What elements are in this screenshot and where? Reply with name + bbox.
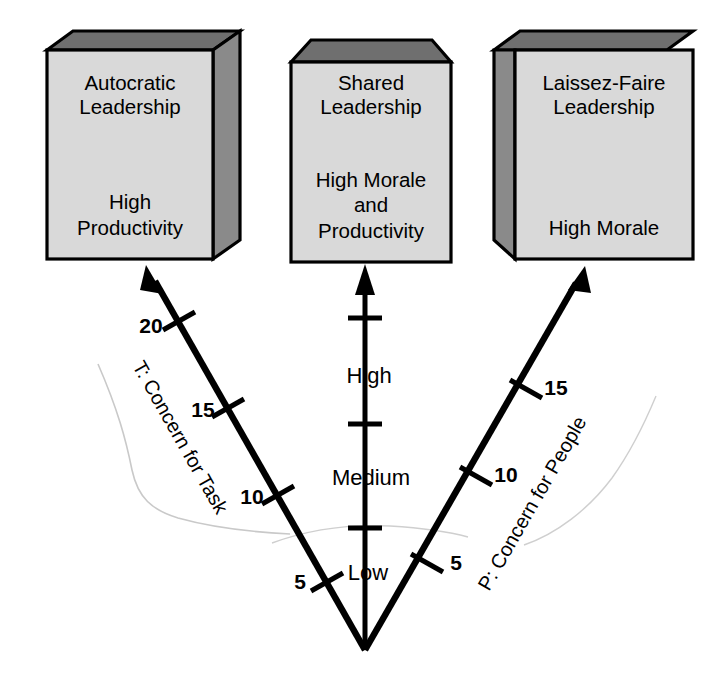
axis-center-label-high: High (346, 363, 391, 388)
axis-task-tick-label-5: 5 (294, 570, 306, 593)
axis-people-tick-label-10: 10 (494, 463, 517, 486)
axis-people-arrowhead (568, 266, 591, 293)
box-autocratic-heading-line2: Leadership (79, 95, 180, 118)
axis-task-name: T: Concern for Task (129, 357, 234, 518)
axis-people: 15 10 5 P: Concern for People (365, 266, 591, 650)
box-laissez-faire: Laissez-Faire Leadership High Morale (494, 31, 693, 259)
box-shared-top (291, 40, 451, 62)
axis-task-tick-label-15: 15 (191, 398, 215, 421)
diagram-canvas: Autocratic Leadership High Productivity … (0, 0, 726, 683)
axis-center-label-medium: Medium (332, 465, 410, 490)
box-autocratic-heading-line1: Autocratic (84, 71, 175, 94)
leadership-grid-diagram: Autocratic Leadership High Productivity … (0, 0, 726, 683)
box-autocratic-outcome-line1: High (109, 190, 151, 213)
box-laissez-faire-outcome-line1: High Morale (549, 216, 660, 239)
axis-center-arrowhead (355, 264, 375, 295)
axis-people-name: P: Concern for People (473, 412, 590, 594)
box-autocratic: Autocratic Leadership High Productivity (47, 31, 240, 259)
axis-task: 20 15 10 5 T: Concern for Task (129, 265, 365, 650)
box-shared-heading-line2: Leadership (320, 95, 421, 118)
axis-task-tick-label-20: 20 (139, 314, 162, 337)
box-autocratic-outcome-line2: Productivity (77, 216, 184, 239)
box-shared-heading-line1: Shared (338, 71, 404, 94)
box-shared-outcome-line1: High Morale (316, 168, 427, 191)
box-shared-outcome-line2: and (354, 193, 388, 216)
axis-task-tick-label-10: 10 (240, 485, 263, 508)
box-autocratic-top (47, 31, 240, 50)
axis-center-label-low: Low (348, 560, 388, 585)
axis-people-tick-label-5: 5 (450, 551, 462, 574)
axis-people-tick-label-15: 15 (544, 376, 568, 399)
box-autocratic-side (213, 31, 240, 259)
box-shared-outcome-line3: Productivity (318, 219, 425, 242)
box-shared: Shared Leadership High Morale and Produc… (291, 40, 451, 262)
axis-task-arrowhead (140, 265, 163, 294)
box-laissez-faire-side (494, 50, 515, 259)
box-laissez-faire-top (494, 31, 693, 50)
box-laissez-faire-heading-line1: Laissez-Faire (542, 71, 665, 94)
box-laissez-faire-heading-line2: Leadership (553, 95, 654, 118)
